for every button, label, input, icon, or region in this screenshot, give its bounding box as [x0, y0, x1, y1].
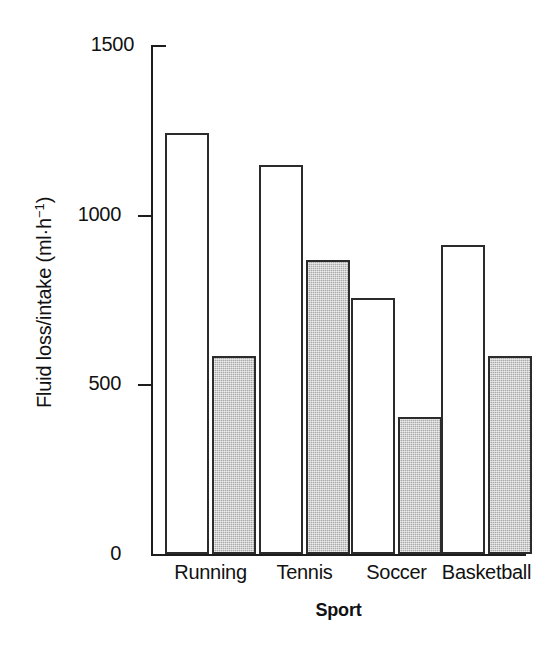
y-axis-label: Fluid loss/intake (ml·h−1): [32, 152, 57, 452]
category-label-basketball: Basketball: [442, 561, 531, 584]
y-tick-label-1000: 1000: [78, 203, 121, 226]
y-tick-label-0: 0: [110, 542, 121, 565]
category-label-tennis: Tennis: [276, 561, 332, 584]
bar-soccer-loss: [351, 298, 395, 554]
y-tick-1500: 1500: [151, 45, 166, 47]
category-label-running: Running: [174, 561, 246, 584]
plot-area: 1500 1000 500 0 RunningTennisSoccerBaske…: [151, 45, 526, 554]
bar-basketball-intake: [488, 356, 532, 555]
bar-soccer-intake: [398, 417, 442, 554]
y-tick-label-500: 500: [89, 372, 121, 395]
y-tick-1000: 1000: [138, 215, 151, 217]
y-tick-label-1500: 1500: [91, 33, 134, 56]
y-axis-label-main: Fluid loss/intake (ml·h: [33, 218, 55, 408]
x-axis-label: Sport: [151, 600, 526, 621]
bar-tennis-intake: [306, 260, 350, 554]
x-axis-line: [151, 554, 526, 556]
bar-running-intake: [212, 356, 256, 555]
y-axis-label-exponent: −1: [32, 203, 47, 218]
category-label-soccer: Soccer: [366, 561, 426, 584]
bar-chart-figure: Fluid loss/intake (ml·h−1) 1500 1000 500…: [0, 0, 560, 645]
bar-tennis-loss: [259, 165, 303, 554]
y-axis-line: [151, 45, 153, 554]
y-tick-500: 500: [138, 384, 151, 386]
bar-basketball-loss: [441, 245, 485, 554]
y-axis-label-tail: ): [33, 197, 55, 203]
bar-running-loss: [165, 133, 209, 554]
